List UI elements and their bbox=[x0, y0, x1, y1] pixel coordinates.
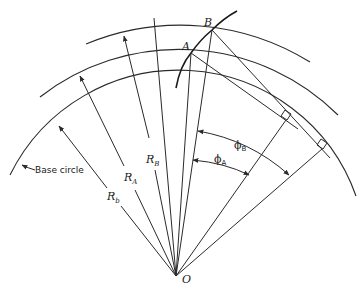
line-ota bbox=[176, 120, 286, 276]
label-ra: RA bbox=[123, 171, 137, 186]
tangent-lines bbox=[191, 30, 330, 158]
involute-diagram: A B O RB RA Rb ϕB ϕA Base circle bbox=[0, 0, 358, 286]
label-base-circle: Base circle bbox=[35, 165, 84, 175]
radius-ra-arrowline bbox=[80, 76, 124, 166]
line-ob bbox=[176, 30, 212, 276]
radial-lines bbox=[59, 18, 322, 276]
line-oa bbox=[176, 53, 191, 276]
radius-rb-lower bbox=[155, 170, 176, 276]
line-otb bbox=[176, 149, 322, 276]
tangent-a bbox=[191, 53, 298, 129]
label-rbase: Rb bbox=[106, 190, 120, 205]
radius-rbase-lower bbox=[121, 206, 176, 276]
angle-arcs bbox=[193, 131, 289, 175]
label-phi-a: ϕA bbox=[214, 153, 227, 167]
label-rb-outer: RB bbox=[145, 153, 159, 168]
label-phi-b: ϕB bbox=[234, 139, 247, 153]
tangent-b bbox=[212, 30, 330, 158]
label-point-b: B bbox=[203, 16, 212, 29]
label-point-o: O bbox=[182, 273, 191, 286]
radius-rbase-arrowline bbox=[59, 126, 107, 188]
base-circle-pointer bbox=[22, 165, 35, 170]
label-point-a: A bbox=[181, 40, 190, 53]
angle-arc-phi-b bbox=[198, 131, 289, 175]
